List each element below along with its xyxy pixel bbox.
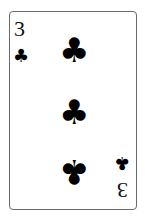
club-icon-corner-top: ♣ (13, 47, 29, 65)
club-icon-pip-top: ♣ (59, 33, 89, 67)
club-icon-corner-bottom: ♣ (114, 154, 130, 172)
club-icon-pip-bottom: ♣ (59, 155, 89, 189)
playing-card[interactable]: 3 ♣ ♣ ♣ ♣ ♣ 3 (9, 11, 137, 210)
club-icon-pip-middle: ♣ (59, 95, 89, 129)
rank-bottom-right: 3 (117, 179, 128, 201)
rank-top-left: 3 (14, 18, 25, 40)
